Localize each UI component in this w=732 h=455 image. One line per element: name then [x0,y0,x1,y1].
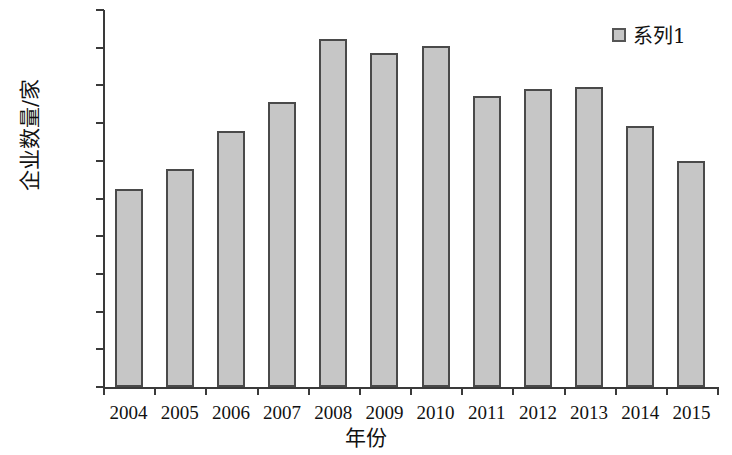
y-axis-tick [96,9,104,11]
bar [422,46,450,387]
x-axis-tick [461,387,463,395]
x-axis-tick [257,387,259,395]
x-axis-tick [615,387,617,395]
y-axis-tick [96,348,104,350]
x-axis-tick [205,387,207,395]
x-axis-tick [717,387,719,395]
bar [370,53,398,387]
y-axis-tick [96,47,104,49]
y-axis-title: 企业数量/家 [17,45,43,225]
y-axis-tick [96,235,104,237]
bar [575,87,603,387]
y-axis-tick [96,160,104,162]
x-axis-tick [103,387,105,395]
x-axis-tick [359,387,361,395]
bar [677,161,705,387]
y-axis-tick [96,311,104,313]
plot-area: 2004200520062007200820092010201120122013… [103,10,717,387]
bar [115,189,143,387]
x-axis-tick [666,387,668,395]
x-axis-tick [154,387,156,395]
x-axis-tick [564,387,566,395]
legend-label-series1: 系列1 [633,20,686,49]
bar [268,102,296,387]
bar [166,169,194,387]
legend: 系列1 [612,20,686,49]
bar [626,126,654,387]
bar-chart-figure: 企业数量/家 200420052006200720082009201020112… [0,0,732,455]
bar [524,89,552,387]
y-axis-tick [96,84,104,86]
x-axis-tick [308,387,310,395]
bar [473,96,501,387]
x-axis-tick [410,387,412,395]
legend-swatch-series1 [612,28,626,42]
x-axis-tick [512,387,514,395]
bar [217,131,245,387]
x-axis-title: 年份 [0,421,732,451]
bar [319,39,347,387]
y-axis-tick [96,122,104,124]
y-axis-tick [96,198,104,200]
y-axis-tick [96,273,104,275]
